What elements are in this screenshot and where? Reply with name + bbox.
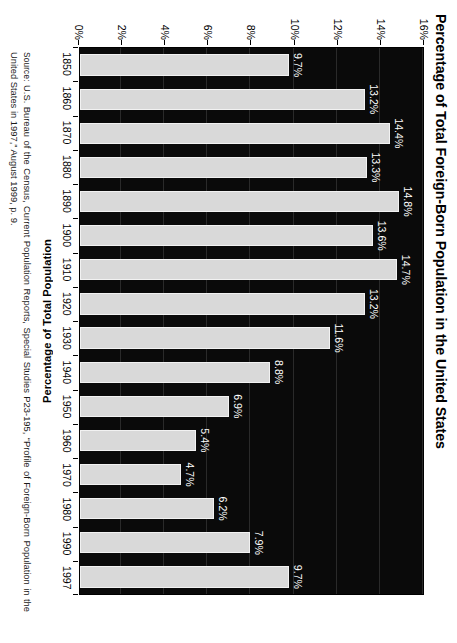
bar-slot: 9.7% xyxy=(80,560,423,594)
x-axis-tick-text: 1920 xyxy=(61,292,73,316)
y-axis-tick-label: 14% xyxy=(375,19,387,40)
bar-slot: 11.6% xyxy=(80,321,423,355)
y-axis-tick-label: 0% xyxy=(73,25,85,40)
bar xyxy=(80,225,373,246)
x-axis-tick-text: 1950 xyxy=(61,395,73,419)
x-axis-tick-label: 1990 xyxy=(56,527,78,561)
x-axis-tick-label: 1910 xyxy=(56,253,78,287)
x-axis-tick-mark xyxy=(73,47,78,48)
bar-value-label: 9.7% xyxy=(292,547,304,595)
x-axis-tick-text: 1990 xyxy=(61,532,73,556)
y-axis-tick-mark xyxy=(380,40,381,45)
bar xyxy=(80,498,214,519)
x-axis-tick-label: 1930 xyxy=(56,321,78,355)
x-axis-tick-label: 1940 xyxy=(56,355,78,389)
x-axis-tick-text: 1850 xyxy=(61,52,73,76)
x-axis-tick-mark xyxy=(73,492,78,493)
y-axis-tick-label: 2% xyxy=(116,25,128,40)
x-axis-tick-text: 1860 xyxy=(61,87,73,111)
x-axis: 1850186018701880189019001910192019301940… xyxy=(56,47,78,595)
bar xyxy=(80,566,289,587)
x-axis-tick-mark xyxy=(73,355,78,356)
page-title: Percentage of Total Foreign-Born Populat… xyxy=(433,14,449,614)
x-axis-tick-mark xyxy=(73,81,78,82)
x-axis-tick-mark xyxy=(73,184,78,185)
x-axis-tick-label: 1890 xyxy=(56,184,78,218)
x-axis-tick-text: 1880 xyxy=(61,155,73,179)
y-axis: 0%2%4%6%8%10%12%14%16% xyxy=(79,0,424,45)
bar-slot: 13.2% xyxy=(80,82,423,116)
bar xyxy=(80,464,181,485)
x-axis-tick-label: 1997 xyxy=(56,561,78,595)
bar xyxy=(80,54,289,75)
rotated-figure-wrapper: Percentage of Total Foreign-Born Populat… xyxy=(0,0,457,643)
bar xyxy=(80,191,399,212)
bar-slot: 13.6% xyxy=(80,219,423,253)
y-axis-tick-mark xyxy=(337,40,338,45)
bar-slot: 13.3% xyxy=(80,150,423,184)
y-axis-tick-label: 8% xyxy=(246,25,258,40)
source-note: Source: U.S. Bureau of the Census, Curre… xyxy=(8,52,33,612)
bar-slot: 14.8% xyxy=(80,185,423,219)
bar-slot: 7.9% xyxy=(80,526,423,560)
chart-figure: Percentage of Total Foreign-Born Populat… xyxy=(0,0,457,643)
y-axis-tick-mark xyxy=(294,40,295,45)
y-axis-tick-mark xyxy=(78,40,79,45)
y-axis-tick-label: 4% xyxy=(159,25,171,40)
y-axis-tick-label: 12% xyxy=(332,19,344,40)
x-axis-tick-text: 1930 xyxy=(61,326,73,350)
source-text: U.S. Bureau of the Census, Current Popul… xyxy=(10,52,34,612)
bar xyxy=(80,532,250,553)
x-axis-tick-label: 1860 xyxy=(56,81,78,115)
x-axis-tick-text: 1980 xyxy=(61,498,73,522)
x-axis-tick-label: 1850 xyxy=(56,47,78,81)
x-axis-tick-mark xyxy=(73,253,78,254)
y-axis-tick-mark xyxy=(423,40,424,45)
x-axis-tick-mark xyxy=(73,424,78,425)
x-axis-tick-mark xyxy=(73,150,78,151)
plot-area: 9.7%13.2%14.4%13.3%14.8%13.6%14.7%13.2%1… xyxy=(79,47,424,595)
bar-series: 9.7%13.2%14.4%13.3%14.8%13.6%14.7%13.2%1… xyxy=(80,48,423,594)
bar-slot: 4.7% xyxy=(80,458,423,492)
x-axis-tick-text: 1900 xyxy=(61,224,73,248)
bar xyxy=(80,293,365,314)
bar-slot: 13.2% xyxy=(80,287,423,321)
source-label: Source: xyxy=(22,52,31,82)
x-axis-tick-mark xyxy=(73,287,78,288)
y-axis-tick-label: 10% xyxy=(289,19,301,40)
x-axis-tick-text: 1960 xyxy=(61,429,73,453)
bar xyxy=(80,259,397,280)
bar-slot: 6.2% xyxy=(80,492,423,526)
x-axis-tick-text: 1940 xyxy=(61,361,73,385)
y-axis-tick-mark xyxy=(207,40,208,45)
x-axis-tick-mark xyxy=(73,458,78,459)
bar xyxy=(80,327,330,348)
x-axis-tick-label: 1960 xyxy=(56,424,78,458)
x-axis-tick-mark xyxy=(73,116,78,117)
x-axis-tick-text: 1997 xyxy=(61,566,73,590)
x-axis-tick-mark xyxy=(73,594,78,595)
x-axis-tick-mark xyxy=(73,390,78,391)
x-axis-tick-label: 1900 xyxy=(56,218,78,252)
x-axis-tick-label: 1980 xyxy=(56,492,78,526)
y-axis-tick-label: 6% xyxy=(202,25,214,40)
x-axis-tick-mark xyxy=(73,527,78,528)
bar-slot: 8.8% xyxy=(80,355,423,389)
x-axis-tick-label: 1970 xyxy=(56,458,78,492)
x-axis-tick-mark xyxy=(73,218,78,219)
x-axis-tick-text: 1910 xyxy=(61,258,73,282)
x-axis-tick-mark xyxy=(73,321,78,322)
x-axis-tick-mark xyxy=(73,561,78,562)
x-axis-tick-label: 1920 xyxy=(56,287,78,321)
y-axis-tick-mark xyxy=(121,40,122,45)
x-axis-tick-text: 1890 xyxy=(61,189,73,213)
y-axis-tick-label: 16% xyxy=(418,19,430,40)
x-axis-tick-label: 1950 xyxy=(56,390,78,424)
x-axis-tick-text: 1870 xyxy=(61,121,73,145)
bar xyxy=(80,89,365,110)
bar-slot: 6.9% xyxy=(80,389,423,423)
x-axis-tick-label: 1880 xyxy=(56,150,78,184)
y-axis-tick-mark xyxy=(251,40,252,45)
y-axis-title: Percentage of Total Population xyxy=(41,47,53,595)
bar xyxy=(80,157,367,178)
